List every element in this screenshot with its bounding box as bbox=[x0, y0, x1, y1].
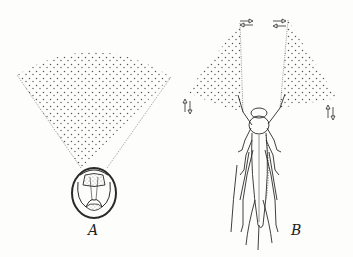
arrow-down-icon bbox=[331, 107, 335, 120]
arrow-left-icon bbox=[240, 23, 253, 27]
arrow-up-icon bbox=[183, 99, 187, 112]
illustration bbox=[0, 0, 353, 257]
arrow-down-icon bbox=[188, 101, 192, 114]
arrow-left-icon bbox=[273, 24, 286, 28]
panel-a-field-of-view bbox=[17, 52, 171, 168]
arrow-up-icon bbox=[326, 105, 330, 118]
arrow-right-icon bbox=[240, 19, 253, 23]
panel-b-left-antenna-field bbox=[187, 23, 243, 112]
figure-canvas: A B bbox=[0, 0, 353, 257]
panel-b-right-antenna-field bbox=[280, 20, 337, 108]
panel-label-b: B bbox=[291, 222, 301, 238]
panel-a-head bbox=[72, 168, 116, 218]
panel-label-a: A bbox=[88, 222, 98, 238]
panel-b-insect bbox=[231, 94, 285, 250]
arrow-right-icon bbox=[273, 19, 286, 23]
